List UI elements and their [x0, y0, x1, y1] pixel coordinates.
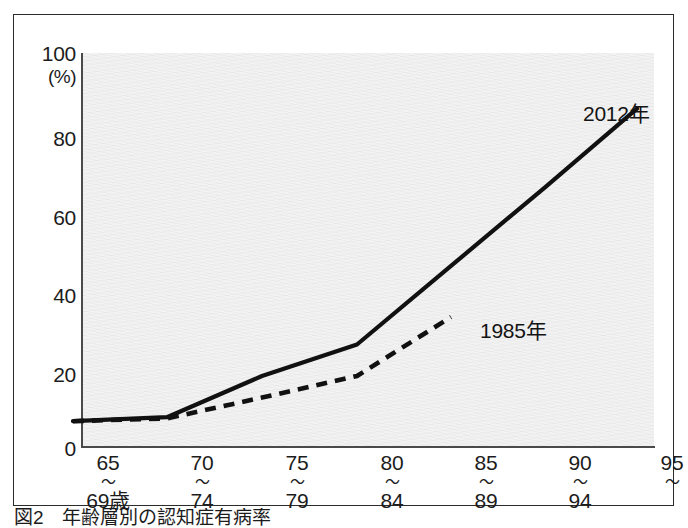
- x-band-tilde: 〜: [625, 474, 688, 490]
- caption-number: 図2: [14, 508, 44, 528]
- caption-title: 年齢層別の認知症有病率: [62, 508, 271, 528]
- x-band-from: 90: [533, 452, 627, 474]
- x-band-tilde: 〜: [155, 474, 249, 490]
- x-band-tilde: 〜: [345, 474, 439, 490]
- plot-area: [82, 53, 654, 446]
- x-band-70-74: 70 〜 74: [155, 452, 249, 512]
- x-band-tilde: 〜: [533, 474, 627, 490]
- y-tick-80: 80: [30, 128, 76, 149]
- figure-caption: 図2 年齢層別の認知症有病率: [14, 508, 674, 528]
- x-band-65-69: 65 〜 69歳: [61, 452, 155, 512]
- x-axis-tick-labels: 65 〜 69歳 70 〜 74 75 〜 79 80 〜 84 85 〜: [82, 452, 654, 514]
- y-axis-line: [81, 53, 83, 447]
- x-band-75-79: 75 〜 79: [250, 452, 344, 512]
- y-tick-40: 40: [30, 285, 76, 306]
- y-tick-60: 60: [30, 207, 76, 228]
- x-band-from: 75: [250, 452, 344, 474]
- x-axis-line: [81, 446, 655, 448]
- series-label-2012: 2012年: [583, 103, 649, 124]
- x-band-90-94: 90 〜 94: [533, 452, 627, 512]
- y-axis-unit-label: (%): [30, 67, 76, 86]
- x-band-from: 70: [155, 452, 249, 474]
- x-band-tilde: 〜: [250, 474, 344, 490]
- x-band-from: 65: [61, 452, 155, 474]
- y-axis-tick-labels: 100 (%) 80 60 40 20 0: [22, 15, 76, 507]
- x-band-tilde: 〜: [61, 474, 155, 490]
- x-band-tilde: 〜: [439, 474, 533, 490]
- x-band-from: 80: [345, 452, 439, 474]
- x-band-from: 95: [625, 452, 688, 474]
- chart-frame: 100 (%) 80 60 40 20 0 65 〜 69歳 70 〜 74 7…: [13, 14, 674, 506]
- x-band-from: 85: [439, 452, 533, 474]
- x-band-85-89: 85 〜 89: [439, 452, 533, 512]
- x-band-95-plus: 95 〜: [625, 452, 688, 512]
- y-tick-20: 20: [30, 364, 76, 385]
- figure-root: 100 (%) 80 60 40 20 0 65 〜 69歳 70 〜 74 7…: [0, 0, 688, 528]
- x-band-80-84: 80 〜 84: [345, 452, 439, 512]
- y-tick-100: 100: [30, 43, 76, 64]
- series-label-1985: 1985年: [480, 320, 546, 341]
